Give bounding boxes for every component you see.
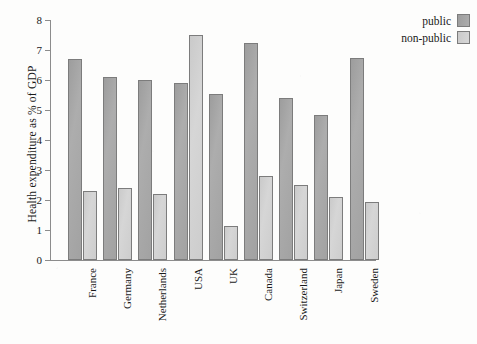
y-tick-mark (45, 230, 50, 231)
bar-non-public-netherlands (153, 194, 167, 260)
y-tick-label: 5 (37, 104, 43, 116)
chart-legend: publicnon-public (386, 12, 470, 46)
y-tick-mark (45, 110, 50, 111)
bar-public-uk (209, 94, 223, 261)
legend-label: public (422, 15, 451, 27)
bar-group (68, 20, 97, 260)
bar-group (350, 20, 379, 260)
bar-public-netherlands (138, 80, 152, 260)
y-tick-mark (45, 170, 50, 171)
y-tick-mark (45, 260, 50, 261)
x-label-switzerland: Switzerland (297, 268, 309, 321)
bar-non-public-germany (118, 188, 132, 260)
bar-group (174, 20, 203, 260)
bar-public-japan (314, 115, 328, 261)
x-label-france: France (86, 268, 98, 298)
plot-area: 012345678 FranceGermanyNetherlandsUSAUKC… (50, 20, 375, 260)
bar-group (209, 20, 238, 260)
x-label-netherlands: Netherlands (156, 268, 168, 321)
bar-non-public-uk (224, 226, 238, 261)
bar-public-france (68, 59, 82, 260)
bar-public-switzerland (279, 98, 293, 260)
bar-chart: Health expenditure as % of GDP 012345678… (0, 0, 477, 344)
bar-non-public-japan (329, 197, 343, 260)
bar-public-sweden (350, 58, 364, 261)
y-tick-label: 6 (37, 74, 43, 86)
y-tick-label: 3 (37, 164, 43, 176)
bar-public-germany (103, 77, 117, 260)
x-label-germany: Germany (121, 268, 133, 309)
y-tick-label: 4 (37, 134, 43, 146)
bar-group (103, 20, 132, 260)
bar-group (244, 20, 273, 260)
bar-group (314, 20, 343, 260)
bar-public-canada (244, 43, 258, 261)
x-label-usa: USA (192, 268, 204, 290)
y-tick-mark (45, 20, 50, 21)
bar-group (279, 20, 308, 260)
y-tick-label: 7 (37, 44, 43, 56)
legend-swatch-non-public-icon (457, 31, 470, 44)
bar-public-usa (174, 83, 188, 260)
y-tick-mark (45, 140, 50, 141)
bar-non-public-usa (189, 35, 203, 260)
x-label-japan: Japan (332, 268, 344, 293)
y-tick-mark (45, 80, 50, 81)
bar-series-container (51, 20, 376, 260)
y-tick-label: 1 (37, 224, 43, 236)
bar-group (138, 20, 167, 260)
y-tick-label: 2 (37, 194, 43, 206)
bar-non-public-canada (259, 176, 273, 260)
y-tick-mark (45, 50, 50, 51)
legend-item-public[interactable]: public (386, 12, 470, 29)
bar-non-public-switzerland (294, 185, 308, 260)
x-axis-line (50, 260, 376, 261)
x-label-canada: Canada (262, 268, 274, 301)
bar-non-public-france (83, 191, 97, 260)
y-tick-mark (45, 200, 50, 201)
legend-item-non-public[interactable]: non-public (386, 29, 470, 46)
legend-swatch-public-icon (457, 14, 470, 27)
legend-label: non-public (401, 32, 451, 44)
bar-non-public-sweden (365, 202, 379, 261)
x-label-uk: UK (227, 268, 239, 284)
x-label-sweden: Sweden (368, 268, 380, 303)
y-tick-label: 0 (37, 254, 43, 266)
y-tick-label: 8 (37, 14, 43, 26)
